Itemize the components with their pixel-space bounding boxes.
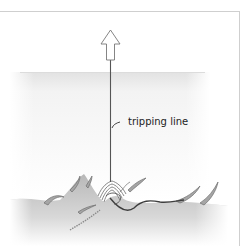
up-arrow-icon (101, 30, 120, 60)
diagram-canvas (0, 0, 250, 246)
tripping-line-label: tripping line (128, 116, 188, 127)
